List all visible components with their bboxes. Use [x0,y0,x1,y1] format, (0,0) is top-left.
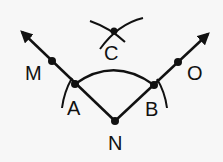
point-a [71,80,79,88]
point-b [150,81,158,89]
construction-diagram: M O A B N C [0,0,223,162]
label-o: O [187,62,203,84]
label-b: B [145,98,158,120]
label-a: A [67,97,81,119]
label-n: N [108,132,122,154]
point-m [48,57,56,65]
arc-at-b [157,79,167,108]
point-c [111,28,118,35]
arc-ab [75,70,154,85]
point-o [174,58,182,66]
point-n [111,117,119,125]
label-c: C [104,42,118,64]
label-m: M [25,62,42,84]
